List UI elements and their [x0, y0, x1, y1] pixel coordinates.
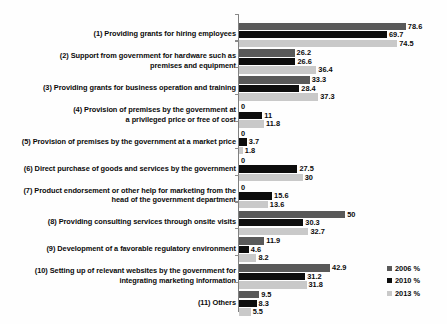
bar-value-label: 37.3 [318, 93, 334, 100]
category-label: (3) Providing grants for business operat… [8, 83, 236, 93]
axis-tick [235, 228, 239, 229]
bar-row: 0 [239, 97, 280, 104]
bar-row: 11.9 [239, 231, 280, 238]
bar-row: 1.8 [239, 141, 259, 148]
bar-value-label: 11.8 [264, 120, 280, 127]
bar-value-label: 31.8 [307, 281, 323, 288]
category-label: (9) Development of a favorable regulator… [8, 244, 236, 254]
bars-container: 11.94.68.2 [239, 231, 280, 257]
category-label: (1) Providing grants for hiring employee… [8, 29, 236, 39]
bars-container: 5030.332.7 [239, 204, 355, 230]
category-label: (11) Others [8, 298, 236, 308]
bar-row: 28.4 [239, 79, 335, 86]
bar-row: 30.3 [239, 213, 355, 220]
bar-row: 31.2 [239, 267, 346, 274]
bar-row: 74.5 [239, 34, 422, 41]
axis-tick [235, 201, 239, 202]
bar-row: 8.3 [239, 294, 271, 301]
bar-row: 30 [239, 168, 314, 175]
bars-container: 01111.8 [239, 97, 280, 123]
category-label: (10) Setting up of relevant websites by … [8, 266, 236, 285]
axis-tick [235, 175, 239, 176]
bar-row: 15.6 [239, 186, 289, 193]
chart-legend: 2006 %2010 %2013 % [387, 262, 420, 300]
legend-label: 2013 % [395, 290, 420, 297]
axis-tick [235, 121, 239, 122]
bars-container: 015.613.6 [239, 178, 289, 204]
axis-tick [235, 282, 239, 283]
plot-area: (1) Providing grants for hiring employee… [0, 0, 447, 324]
axis-tick [235, 255, 239, 256]
bar-row: 42.9 [239, 258, 346, 265]
bar-row: 0 [239, 151, 314, 158]
category-label: (8) Providing consulting services throug… [8, 217, 236, 227]
bar-row: 0 [239, 124, 259, 131]
bar-value-label: 32.7 [308, 228, 324, 235]
legend-item[interactable]: 2010 % [387, 275, 420, 288]
bar-value-label: 30 [303, 174, 313, 181]
bar-row: 78.6 [239, 17, 422, 24]
bar-row: 11 [239, 106, 280, 113]
bar-row: 32.7 [239, 222, 355, 229]
bars-container: 9.58.35.5 [239, 285, 271, 311]
bars-container: 26.226.636.4 [239, 43, 333, 69]
bar-row: 37.3 [239, 87, 335, 94]
axis-tick [235, 148, 239, 149]
bars-container: 42.931.231.8 [239, 258, 346, 284]
bar-row: 3.7 [239, 132, 259, 139]
bar-row: 69.7 [239, 25, 422, 32]
bar-value-label: 5.5 [251, 308, 263, 315]
category-label: (2) Support from government for hardware… [8, 51, 236, 70]
legend-item[interactable]: 2013 % [387, 287, 420, 300]
legend-swatch-icon [387, 278, 392, 283]
category-label: (4) Provision of premises by the governm… [8, 105, 236, 124]
bar-row: 26.6 [239, 52, 333, 59]
legend-swatch-icon [387, 291, 392, 296]
bars-container: 027.530 [239, 151, 314, 177]
bar-chart: (1) Providing grants for hiring employee… [0, 0, 447, 324]
bar-2013 [239, 308, 251, 315]
category-label: (5) Provision of premises by the governm… [8, 137, 236, 147]
bar-row: 13.6 [239, 195, 289, 202]
bar-row: 50 [239, 204, 355, 211]
bar-row: 36.4 [239, 60, 333, 67]
bar-row: 9.5 [239, 285, 271, 292]
bar-row: 27.5 [239, 159, 314, 166]
legend-label: 2010 % [395, 277, 420, 284]
bar-row: 5.5 [239, 302, 271, 309]
category-label: (7) Product endorsement or other help fo… [8, 186, 236, 205]
bar-row: 33.3 [239, 70, 335, 77]
bars-container: 33.328.437.3 [239, 70, 335, 96]
category-label: (6) Direct purchase of goods and service… [8, 164, 236, 174]
bars-container: 78.669.774.5 [239, 17, 422, 43]
bar-row: 8.2 [239, 248, 280, 255]
bar-row: 0 [239, 178, 289, 185]
bar-row: 31.8 [239, 275, 346, 282]
bar-value-label: 74.5 [397, 40, 413, 47]
bar-row: 4.6 [239, 240, 280, 247]
legend-swatch-icon [387, 266, 392, 271]
axis-tick [235, 94, 239, 95]
bar-row: 26.2 [239, 43, 333, 50]
legend-item[interactable]: 2006 % [387, 262, 420, 275]
axis-tick [235, 67, 239, 68]
bar-row: 11.8 [239, 114, 280, 121]
bars-container: 03.71.8 [239, 124, 259, 150]
axis-tick [235, 14, 239, 15]
axis-tick [235, 40, 239, 41]
legend-label: 2006 % [395, 265, 420, 272]
